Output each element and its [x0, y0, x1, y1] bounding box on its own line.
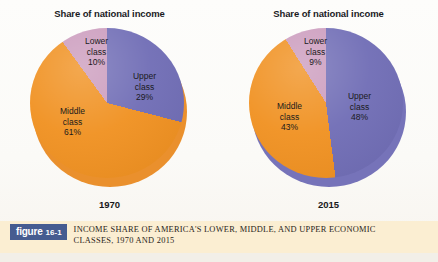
year-label-2015: 2015: [219, 199, 438, 210]
chart-title-1970: Share of national income: [0, 8, 219, 19]
pie-chart-1970: Share of national income Lower class 10%…: [0, 0, 219, 214]
figure-caption-text: INCOME SHARE OF AMERICA'S LOWER, MIDDLE,…: [74, 225, 376, 246]
middle-label-line2: class: [280, 112, 299, 122]
year-label-1970: 1970: [0, 199, 219, 210]
lower-label-line2: class: [87, 47, 106, 57]
charts-area: Share of national income Lower class 10%…: [0, 0, 438, 214]
upper-label-line2: class: [135, 82, 154, 92]
upper-label-pct: 29%: [136, 92, 153, 102]
slice-label-middle-2015: Middle class 43%: [265, 101, 315, 133]
pie-graphic-2015: Lower class 9% Upper class 48% Middle cl…: [249, 28, 409, 188]
lower-label-line2: class: [306, 47, 325, 57]
caption-line-2: CLASSES, 1970 AND 2015: [74, 236, 376, 247]
figure-16-1: Share of national income Lower class 10%…: [0, 0, 438, 262]
figure-caption-bar: figure 16-1 INCOME SHARE OF AMERICA'S LO…: [0, 221, 438, 253]
chart-title-2015: Share of national income: [219, 8, 438, 19]
pie-chart-2015: Share of national income Lower class 9% …: [219, 0, 438, 214]
upper-label-pct: 48%: [351, 112, 368, 122]
slice-label-lower-1970: Lower class 10%: [74, 36, 120, 68]
pie-graphic-1970: Lower class 10% Upper class 29% Middle c…: [30, 28, 190, 188]
figure-number-badge: figure 16-1: [10, 224, 67, 240]
lower-label-line1: Lower: [85, 36, 108, 46]
slice-label-upper-1970: Upper class 29%: [122, 71, 168, 103]
middle-label-line1: Middle: [277, 101, 302, 111]
middle-label-line2: class: [63, 117, 82, 127]
lower-label-line1: Lower: [304, 36, 327, 46]
slice-label-lower-2015: Lower class 9%: [293, 36, 339, 68]
middle-label-pct: 61%: [64, 127, 81, 137]
page-bottom-strip: [0, 253, 438, 262]
figure-badge-number: 16-1: [46, 228, 62, 237]
slice-label-upper-2015: Upper class 48%: [337, 91, 383, 123]
lower-label-pct: 9%: [309, 57, 321, 67]
lower-label-pct: 10%: [88, 57, 105, 67]
upper-label-line1: Upper: [348, 91, 371, 101]
slice-label-middle-1970: Middle class 61%: [48, 106, 98, 138]
middle-label-line1: Middle: [60, 106, 85, 116]
upper-label-line2: class: [350, 102, 369, 112]
figure-badge-word: figure: [16, 226, 43, 237]
middle-label-pct: 43%: [281, 122, 298, 132]
caption-line-1: INCOME SHARE OF AMERICA'S LOWER, MIDDLE,…: [74, 225, 376, 234]
upper-label-line1: Upper: [133, 71, 156, 81]
